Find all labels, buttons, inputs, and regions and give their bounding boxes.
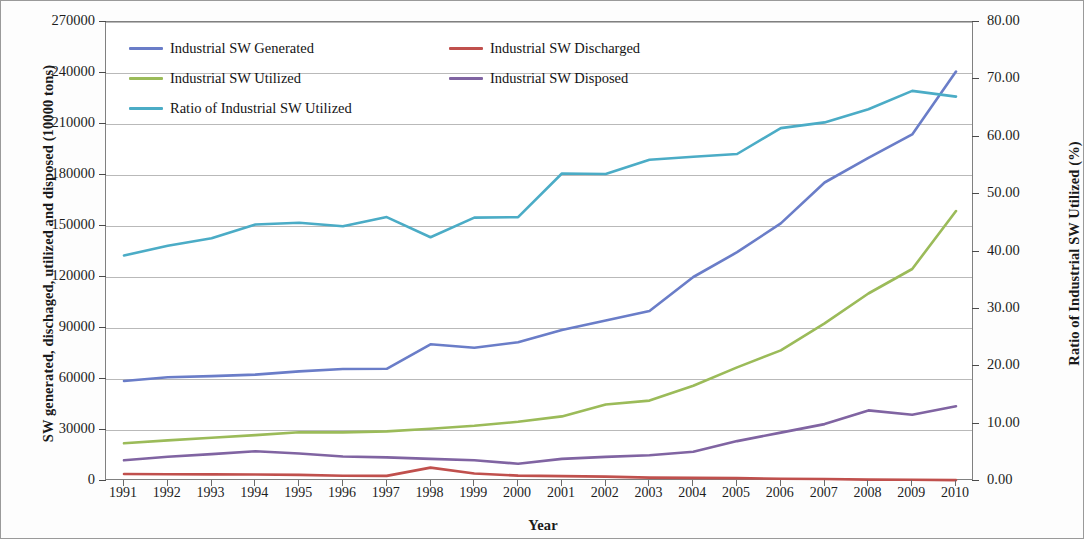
- y-axis-right-tick-mark: [972, 136, 979, 137]
- y-axis-right-tick-label: 30.00: [987, 300, 1069, 315]
- y-axis-left-tick-label: 270000: [13, 13, 95, 28]
- y-axis-left-tick-mark: [99, 480, 106, 481]
- x-axis-tick-mark: [692, 480, 693, 486]
- y-axis-right-tick-mark: [972, 21, 979, 22]
- y-axis-left-tick-label: 210000: [13, 115, 95, 130]
- y-axis-left-tick-label: 150000: [13, 217, 95, 232]
- y-axis-left-tick-label: 0: [13, 472, 95, 487]
- x-axis-tick-mark: [648, 480, 649, 486]
- x-axis-tick-mark: [123, 480, 124, 486]
- y-axis-left-tick-mark: [99, 225, 106, 226]
- legend-color-swatch-icon: [129, 107, 163, 110]
- y-axis-right-tick-label: 20.00: [987, 357, 1069, 372]
- legend-color-swatch-icon: [129, 77, 163, 80]
- y-axis-left-tick-mark: [99, 174, 106, 175]
- x-axis-tick-mark: [298, 480, 299, 486]
- legend-item[interactable]: Industrial SW Discharged: [449, 40, 749, 57]
- y-axis-left-tick-label: 30000: [13, 421, 95, 436]
- legend-item[interactable]: Ratio of Industrial SW Utilized: [129, 100, 429, 117]
- y-axis-left-tick-label: 240000: [13, 64, 95, 79]
- y-axis-left-tick-label: 180000: [13, 166, 95, 181]
- chart-legend: Industrial SW GeneratedIndustrial SW Dis…: [129, 33, 749, 121]
- y-axis-left-tick-label: 60000: [13, 370, 95, 385]
- x-axis-tick-mark: [254, 480, 255, 486]
- y-axis-right-tick-mark: [972, 251, 979, 252]
- y-axis-left-title: SW generated, dischaged, utilized and di…: [40, 19, 57, 489]
- legend-color-swatch-icon: [449, 77, 483, 80]
- x-axis-tick-mark: [736, 480, 737, 486]
- x-axis-tick-mark: [386, 480, 387, 486]
- series-line: [124, 211, 956, 443]
- x-axis-tick-mark: [430, 480, 431, 486]
- legend-item-label: Ratio of Industrial SW Utilized: [170, 100, 352, 117]
- legend-item-label: Industrial SW Utilized: [170, 70, 301, 87]
- x-axis-tick-mark: [561, 480, 562, 486]
- y-axis-left-tick-label: 120000: [13, 268, 95, 283]
- x-axis-tick-mark: [517, 480, 518, 486]
- y-axis-right-tick-mark: [972, 78, 979, 79]
- y-axis-right-tick-label: 0.00: [987, 472, 1069, 487]
- legend-item-label: Industrial SW Discharged: [490, 40, 640, 57]
- y-axis-left-tick-mark: [99, 21, 106, 22]
- legend-item[interactable]: Industrial SW Utilized: [129, 70, 429, 87]
- y-axis-left-tick-mark: [99, 378, 106, 379]
- x-axis-tick-mark: [342, 480, 343, 486]
- x-axis-tick-mark: [605, 480, 606, 486]
- x-axis-tick-mark: [780, 480, 781, 486]
- y-axis-left-tick-mark: [99, 123, 106, 124]
- y-axis-left-tick-mark: [99, 276, 106, 277]
- x-axis-title: Year: [1, 517, 1084, 534]
- x-axis-tick-label: 2010: [925, 486, 985, 500]
- y-axis-right-tick-label: 10.00: [987, 415, 1069, 430]
- y-axis-left-tick-mark: [99, 72, 106, 73]
- y-axis-left-tick-mark: [99, 327, 106, 328]
- x-axis-tick-mark: [211, 480, 212, 486]
- y-axis-left-tick-label: 90000: [13, 319, 95, 334]
- y-axis-right-tick-mark: [972, 423, 979, 424]
- y-axis-left-tick-mark: [99, 429, 106, 430]
- x-axis-tick-mark: [955, 480, 956, 486]
- x-axis-tick-mark: [867, 480, 868, 486]
- y-axis-right-tick-label: 50.00: [987, 185, 1069, 200]
- legend-color-swatch-icon: [129, 47, 163, 50]
- x-axis-tick-mark: [911, 480, 912, 486]
- y-axis-right-tick-label: 70.00: [987, 70, 1069, 85]
- legend-item[interactable]: Industrial SW Generated: [129, 40, 429, 57]
- chart-figure: SW generated, dischaged, utilized and di…: [0, 0, 1084, 539]
- legend-item-label: Industrial SW Disposed: [490, 70, 628, 87]
- y-axis-right-tick-label: 60.00: [987, 128, 1069, 143]
- x-axis-tick-mark: [473, 480, 474, 486]
- legend-item[interactable]: Industrial SW Disposed: [449, 70, 749, 87]
- y-axis-right-tick-mark: [972, 193, 979, 194]
- x-axis-tick-mark: [167, 480, 168, 486]
- series-line: [124, 468, 956, 481]
- y-axis-right-tick-mark: [972, 480, 979, 481]
- x-axis-tick-mark: [824, 480, 825, 486]
- y-axis-right-tick-label: 80.00: [987, 13, 1069, 28]
- legend-item-label: Industrial SW Generated: [170, 40, 314, 57]
- legend-color-swatch-icon: [449, 47, 483, 50]
- y-axis-right-tick-mark: [972, 308, 979, 309]
- y-axis-right-tick-mark: [972, 365, 979, 366]
- y-axis-right-tick-label: 40.00: [987, 243, 1069, 258]
